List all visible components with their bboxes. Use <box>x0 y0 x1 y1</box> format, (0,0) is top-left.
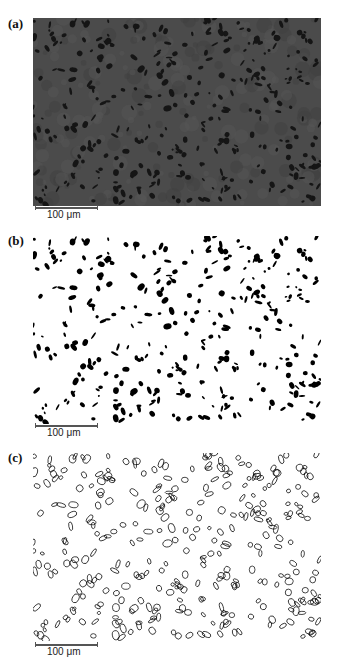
panel-a-scale-label: 100 μm <box>47 209 81 220</box>
panel-a-micrograph <box>33 18 321 206</box>
panel-b-scale-label: 100 μm <box>47 427 81 438</box>
panel-a-label: (a) <box>8 16 23 32</box>
panel-c-label: (c) <box>8 450 22 466</box>
panel-b-label: (b) <box>8 233 24 249</box>
panel-b-binary <box>33 236 321 424</box>
panel-c-scale-label: 100 μm <box>47 646 81 657</box>
panel-c-outline <box>33 453 321 641</box>
